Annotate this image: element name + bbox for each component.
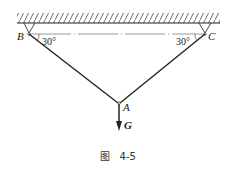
statics-diagram: B C A G 30° 30° 图 4-5 <box>0 0 230 176</box>
label-g: G <box>124 119 132 131</box>
angle-label-b: 30° <box>42 36 56 47</box>
support-b-icon <box>24 23 35 33</box>
arrow-down-icon <box>116 121 122 131</box>
label-b: B <box>17 30 24 42</box>
rope-ac <box>120 34 205 103</box>
label-a: A <box>122 101 130 113</box>
ceiling-hatching <box>17 13 220 23</box>
joint-a <box>118 102 121 105</box>
angle-label-c: 30° <box>176 36 190 47</box>
figure-canvas: B C A G 30° 30° 图 4-5 <box>0 0 230 176</box>
label-c: C <box>208 30 216 42</box>
figure-caption: 图 4-5 <box>100 151 136 162</box>
